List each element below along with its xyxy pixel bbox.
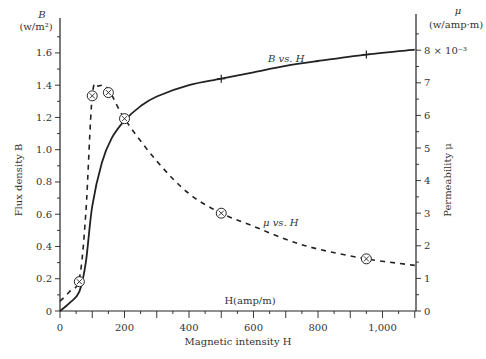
circled-x-marker-icon — [216, 208, 226, 218]
circled-x-marker-icon — [87, 91, 97, 101]
x-tick-label: 800 — [308, 322, 327, 333]
y-right-tick-label: 8 × 10⁻³ — [424, 45, 467, 56]
x-unit-label: H(amp/m) — [224, 295, 275, 306]
y-left-tick-label: 0.2 — [36, 273, 52, 284]
circled-x-marker-icon — [74, 277, 84, 287]
x-tick-label: 200 — [115, 322, 134, 333]
x-tick-label: 1,000 — [368, 322, 397, 333]
y-right-tick-label: 2 — [424, 240, 430, 251]
y-left-tick-label: 1.6 — [36, 47, 52, 58]
b-vs-h-annotation: B vs. H — [267, 53, 305, 64]
b-symbol: B — [37, 9, 45, 20]
labels-layer: 02004006008001,00000.20.40.60.81.01.21.4… — [13, 5, 483, 347]
x-tick-label: 400 — [179, 322, 198, 333]
mu-unit: (w/amp·m) — [429, 19, 483, 30]
y-left-tick-label: 0 — [46, 306, 52, 317]
circled-x-marker-icon — [103, 88, 113, 98]
plus-marker-icon — [362, 51, 370, 59]
y-left-tick-label: 1.0 — [36, 144, 52, 155]
y-right-axis-title: Permeability μ — [442, 143, 453, 217]
y-left-axis-title: Flux density B — [13, 144, 24, 217]
y-left-tick-label: 0.6 — [36, 209, 52, 220]
y-right-tick-label: 1 — [424, 273, 430, 284]
series-layer — [60, 50, 415, 311]
x-tick-label: 0 — [57, 322, 63, 333]
axes — [55, 14, 421, 318]
circled-x-marker-icon — [361, 254, 371, 264]
y-left-tick-label: 1.4 — [36, 80, 52, 91]
x-tick-label: 600 — [244, 322, 263, 333]
y-right-tick-label: 7 — [424, 77, 430, 88]
circled-x-marker-icon — [120, 114, 130, 124]
y-left-tick-label: 0.4 — [36, 241, 52, 252]
x-axis-title: Magnetic intensity H — [185, 336, 292, 347]
b-vs-h-curve — [60, 50, 415, 311]
mu-vs-h-curve — [60, 83, 415, 301]
y-left-tick-label: 1.2 — [36, 112, 52, 123]
mu-vs-h-annotation: μ vs. H — [263, 217, 299, 228]
y-right-tick-label: 3 — [424, 208, 430, 219]
y-right-tick-label: 5 — [424, 143, 430, 154]
chart: 02004006008001,00000.20.40.60.81.01.21.4… — [0, 0, 486, 359]
b-unit: (w/m²) — [19, 21, 52, 32]
plus-marker-icon — [217, 75, 225, 83]
y-right-tick-label: 4 — [424, 175, 430, 186]
y-right-tick-label: 0 — [424, 306, 430, 317]
y-left-tick-label: 0.8 — [36, 176, 52, 187]
y-right-tick-label: 6 — [424, 110, 430, 121]
mu-symbol: μ — [455, 5, 462, 16]
